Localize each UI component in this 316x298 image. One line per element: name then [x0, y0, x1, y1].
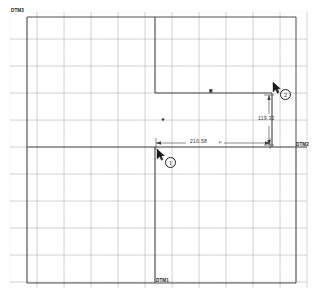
cursor-arrow-icon-2: [273, 82, 280, 93]
datum-label-dtm3: DTM3: [11, 9, 24, 14]
cad-drawing-canvas[interactable]: DTM3 DTM2 DTM1 210.58 µ 119.32 1 2: [0, 0, 316, 298]
datum-label-dtm2: DTM2: [296, 143, 309, 148]
callout-balloon-1[interactable]: 1: [165, 157, 176, 168]
vertical-dimension-value[interactable]: 119.32: [258, 116, 275, 121]
callout-balloon-2[interactable]: 2: [280, 89, 291, 100]
horizontal-dimension-value[interactable]: 210.58: [190, 139, 207, 144]
outer-frame: [27, 17, 296, 283]
profile-geometry[interactable]: [0, 0, 316, 298]
horizontal-dimension-unit: µ: [219, 140, 222, 144]
vertex-marker-a: [209, 89, 212, 92]
step-profile: [155, 17, 272, 147]
vertex-marker-b: [162, 118, 165, 121]
cursor-arrow-icon-1: [157, 149, 164, 160]
datum-label-dtm1: DTM1: [156, 279, 169, 284]
